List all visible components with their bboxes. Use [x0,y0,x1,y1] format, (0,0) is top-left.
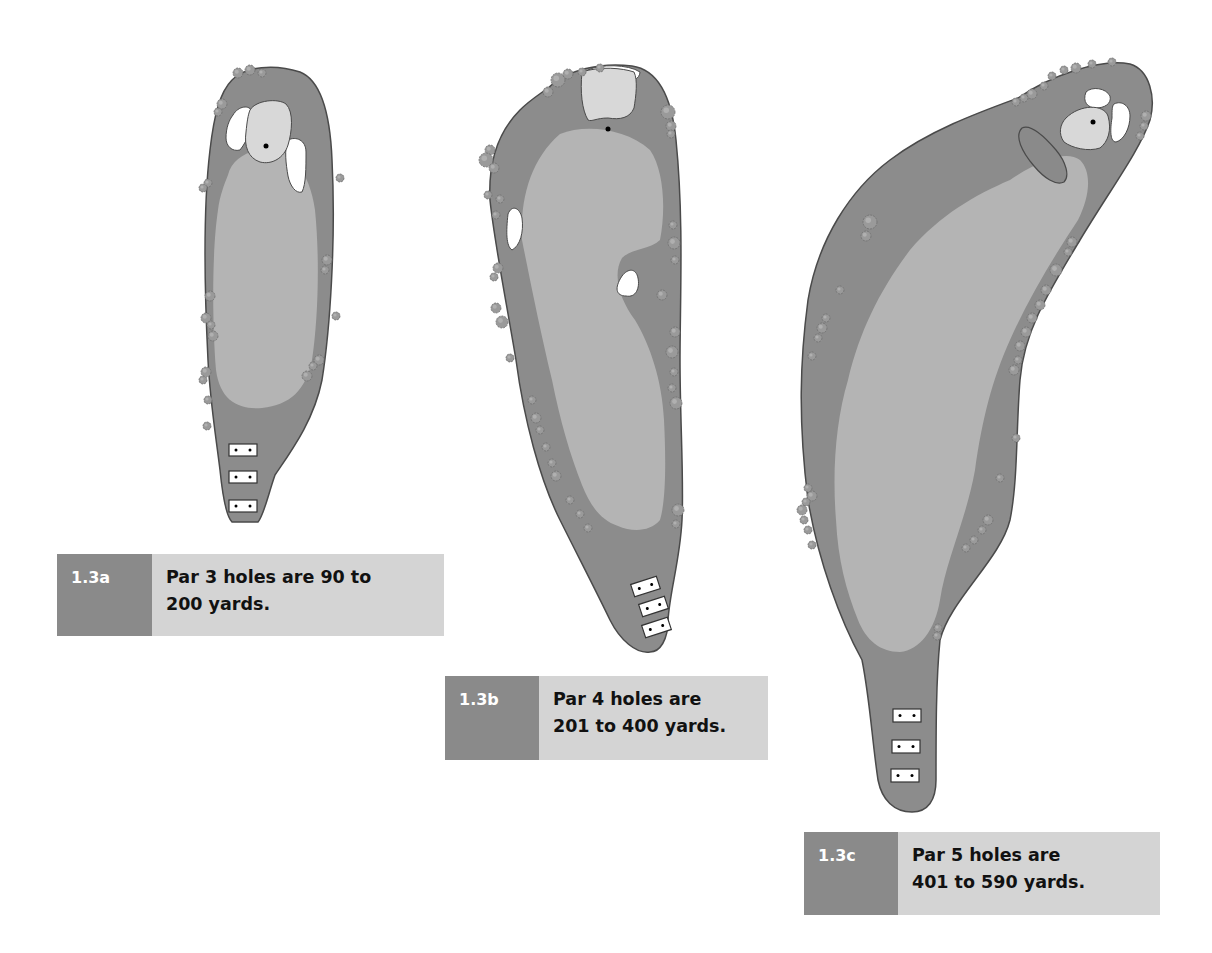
tee-box-icon [891,769,919,782]
tree-highlight [799,507,803,511]
tree-highlight [985,517,989,521]
tree-icon [817,323,827,333]
tree-highlight [310,363,313,366]
tree-highlight [809,493,813,497]
tree-icon [258,69,266,77]
tree-icon [672,504,684,516]
tree-highlight [537,427,540,430]
tree-icon [1140,122,1148,130]
tree-highlight [210,333,214,337]
tree-highlight [207,293,211,297]
tee-marker [899,714,902,717]
tree-highlight [304,373,308,377]
tree-icon [1108,58,1116,66]
tree-icon [1048,72,1056,80]
tee-marker [897,774,900,777]
tree-highlight [823,315,826,318]
tree-icon [983,515,993,525]
tree-highlight [337,175,340,178]
tree-icon [1009,365,1019,375]
tee-box-icon [229,444,257,456]
tree-highlight [203,369,207,373]
tree-icon [492,211,500,219]
tree-highlight [673,521,676,524]
tree-highlight [1029,91,1033,95]
tree-highlight [809,542,812,545]
tree-icon [496,195,504,203]
tee-marker [249,505,252,508]
tee-box-icon [892,740,920,753]
tree-icon [548,459,556,467]
tree-icon [205,291,215,301]
tree-highlight [235,70,239,74]
tree-icon [563,69,573,79]
tree-highlight [219,101,223,105]
tree-highlight [1061,67,1064,70]
tree-icon [800,516,808,524]
tree-icon [1071,63,1081,73]
tee-box [892,740,920,753]
tree-highlight [670,222,673,225]
tee-marker [912,745,915,748]
tree-highlight [529,397,532,400]
tree-highlight [533,415,537,419]
tee-marker [911,774,914,777]
tree-icon [1027,89,1037,99]
tee-marker [235,449,238,452]
tree-icon [1040,82,1048,90]
tree-icon [233,68,243,78]
tree-icon [1060,66,1068,74]
tree-highlight [1143,113,1147,117]
tree-highlight [669,385,672,388]
tree-icon [208,331,218,341]
tree-highlight [671,369,674,372]
caption-line-1: Par 3 holes are 90 to [166,564,444,591]
tree-highlight [1109,59,1112,62]
tree-icon [543,87,553,97]
tree-highlight [670,239,675,244]
tree-icon [1015,341,1025,351]
tree-highlight [805,485,808,488]
tree-highlight [485,192,488,195]
tree-highlight [545,89,549,93]
tree-icon [670,327,680,337]
tee-box [891,769,919,782]
tree-icon [962,544,970,552]
tree-highlight [1141,123,1144,126]
tree-highlight [1137,133,1140,136]
tree-icon [332,312,340,320]
tree-highlight [1069,239,1073,243]
tree-highlight [565,71,569,75]
tree-icon [207,321,215,329]
tree-highlight [1015,357,1018,360]
tree-highlight [597,65,600,68]
tree-highlight [837,287,840,290]
caption-par-3: 1.3a Par 3 holes are 90 to 200 yards. [57,554,444,636]
tree-icon [808,541,816,549]
tree-icon [670,368,678,376]
tree-icon [814,334,822,342]
caption-line-2: 201 to 400 yards. [553,713,768,740]
tree-icon [1050,264,1062,276]
tree-icon [661,105,675,119]
caption-par-4: 1.3b Par 4 holes are 201 to 400 yards. [445,676,768,760]
tree-highlight [567,497,570,500]
pin-hole-icon [264,144,269,149]
caption-line-2: 200 yards. [166,591,444,618]
tree-icon [667,130,675,138]
figure-label: 1.3a [57,554,152,636]
tree-highlight [316,357,320,361]
tree-highlight [498,318,503,323]
tree-icon [1020,94,1028,102]
tree-icon [542,443,550,451]
caption-line-1: Par 4 holes are [553,686,768,713]
tree-icon [978,526,986,534]
tree-highlight [997,475,1000,478]
caption-line-1: Par 5 holes are [912,842,1160,869]
tree-icon [1067,237,1077,247]
tree-icon [302,371,312,381]
tree-icon [309,362,317,370]
tree-highlight [1065,249,1068,252]
tree-icon [1012,434,1020,442]
tree-highlight [815,335,818,338]
